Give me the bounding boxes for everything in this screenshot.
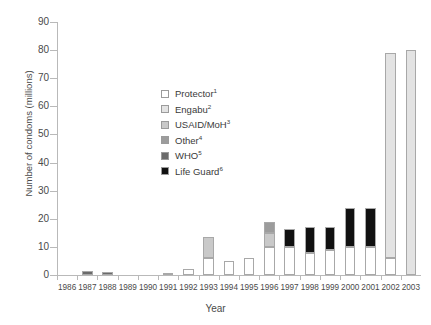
bar-segment-engabu[interactable] (385, 53, 396, 258)
bar-segment-who[interactable] (82, 271, 93, 275)
bar-1988[interactable] (102, 272, 113, 275)
bar-segment-protector[interactable] (385, 258, 396, 275)
y-axis-line (57, 22, 58, 275)
bar-1997[interactable] (284, 229, 295, 275)
legend-item-protector[interactable]: Protector1 (161, 86, 230, 102)
bar-segment-life-guard[interactable] (325, 227, 336, 249)
legend-footnote-marker: 3 (227, 118, 230, 125)
x-tick-mark (199, 275, 200, 280)
bar-segment-protector[interactable] (345, 247, 356, 275)
bar-segment-protector[interactable] (264, 247, 275, 275)
bar-segment-life-guard[interactable] (284, 229, 295, 247)
legend-label: Engabu2 (175, 104, 211, 115)
bar-2003[interactable] (406, 50, 417, 275)
legend-label: Protector1 (175, 88, 217, 99)
x-tick-mark (279, 275, 280, 280)
bar-2001[interactable] (365, 208, 376, 275)
bar-segment-protector[interactable] (284, 247, 295, 275)
x-tick-mark (300, 275, 301, 280)
legend-swatch-icon (161, 152, 169, 160)
y-tick-mark (50, 219, 57, 220)
bar-2002[interactable] (385, 53, 396, 275)
y-tick-label: 0 (19, 270, 49, 280)
x-tick-mark (360, 275, 361, 280)
bar-1999[interactable] (325, 227, 336, 275)
bar-segment-usaid-moh[interactable] (203, 237, 214, 258)
legend-footnote-marker: 4 (199, 134, 202, 141)
bar-segment-protector[interactable] (325, 250, 336, 275)
plot-area: 0102030405060708090 19861987198819891990… (57, 22, 421, 275)
y-tick-label: 30 (19, 186, 49, 196)
bar-1998[interactable] (305, 227, 316, 275)
legend-swatch-icon (161, 121, 169, 129)
y-tick-label: 90 (19, 17, 49, 27)
y-tick-mark (50, 78, 57, 79)
y-tick-label: 80 (19, 45, 49, 55)
bar-segment-protector[interactable] (183, 269, 194, 275)
legend-label: Other4 (175, 135, 202, 146)
y-tick-mark (50, 247, 57, 248)
bar-2000[interactable] (345, 208, 356, 275)
y-tick-mark (50, 106, 57, 107)
x-tick-mark (320, 275, 321, 280)
legend-swatch-icon (161, 105, 169, 113)
bar-segment-protector[interactable] (203, 258, 214, 275)
bar-segment-life-guard[interactable] (305, 227, 316, 252)
bar-1992[interactable] (183, 269, 194, 275)
y-tick-label: 10 (19, 242, 49, 252)
x-tick-mark (219, 275, 220, 280)
legend-label: WHO5 (175, 150, 202, 161)
legend-swatch-icon (161, 167, 169, 175)
legend-swatch-icon (161, 90, 169, 98)
legend-item-usaid-moh[interactable]: USAID/MoH3 (161, 117, 230, 133)
y-tick-mark (50, 191, 57, 192)
bar-1996[interactable] (264, 222, 275, 275)
bar-1994[interactable] (224, 261, 235, 275)
bar-1995[interactable] (244, 258, 255, 275)
x-axis-title: Year (0, 303, 431, 314)
x-tick-mark (239, 275, 240, 280)
legend-footnote-marker: 6 (219, 165, 222, 172)
x-tick-mark (401, 275, 402, 280)
x-tick-mark (97, 275, 98, 280)
x-tick-mark (259, 275, 260, 280)
y-tick-mark (50, 50, 57, 51)
bar-segment-engabu[interactable] (406, 50, 417, 275)
x-tick-mark (57, 275, 58, 280)
x-tick-mark (340, 275, 341, 280)
bar-segment-life-guard[interactable] (345, 208, 356, 247)
legend-item-engabu[interactable]: Engabu2 (161, 102, 230, 118)
y-tick-label: 70 (19, 73, 49, 83)
bar-segment-usaid-moh[interactable] (264, 233, 275, 247)
y-tick-label: 50 (19, 129, 49, 139)
y-tick-label: 40 (19, 158, 49, 168)
x-tick-mark (381, 275, 382, 280)
bar-1987[interactable] (82, 271, 93, 275)
legend-item-who[interactable]: WHO5 (161, 148, 230, 164)
x-tick-mark (138, 275, 139, 280)
bar-1993[interactable] (203, 237, 214, 275)
bar-segment-protector[interactable] (244, 258, 255, 275)
legend-footnote-marker: 5 (198, 149, 201, 156)
legend-item-life-guard[interactable]: Life Guard6 (161, 164, 230, 180)
y-tick-label: 60 (19, 101, 49, 111)
bar-segment-who[interactable] (102, 272, 113, 275)
legend-item-other[interactable]: Other4 (161, 133, 230, 149)
x-tick-label: 2003 (391, 284, 431, 292)
y-tick-mark (50, 275, 57, 276)
bar-1991[interactable] (163, 274, 174, 275)
bar-segment-protector[interactable] (224, 261, 235, 275)
bar-segment-protector[interactable] (305, 253, 316, 275)
legend-footnote-marker: 1 (214, 87, 217, 94)
bar-segment-other[interactable] (264, 222, 275, 233)
bar-segment-life-guard[interactable] (365, 208, 376, 247)
bar-segment-protector[interactable] (163, 273, 174, 275)
chart-legend: Protector1Engabu2USAID/MoH3Other4WHO5Lif… (161, 86, 230, 179)
legend-label: Life Guard6 (175, 166, 223, 177)
x-tick-mark (158, 275, 159, 280)
x-tick-mark (118, 275, 119, 280)
bar-segment-protector[interactable] (365, 247, 376, 275)
y-tick-mark (50, 22, 57, 23)
x-tick-mark (178, 275, 179, 280)
legend-swatch-icon (161, 136, 169, 144)
